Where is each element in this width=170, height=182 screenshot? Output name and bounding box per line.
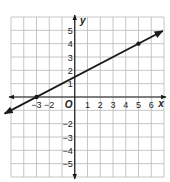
y-tick-label: 5 — [68, 26, 73, 36]
x-tick-label: 4 — [123, 100, 128, 110]
y-tick-label: 2 — [68, 66, 73, 76]
origin-label: O — [65, 99, 73, 110]
coordinate-plane: −3−212345654321−2−3−4−5Oxy — [0, 0, 170, 182]
data-point — [34, 95, 38, 99]
x-tick-label: −2 — [44, 100, 54, 110]
y-tick-label: −5 — [62, 159, 72, 169]
x-tick-label: 3 — [110, 100, 115, 110]
y-tick-label: −3 — [62, 133, 72, 143]
x-tick-label: −3 — [31, 100, 41, 110]
y-tick-label: −4 — [62, 146, 72, 156]
x-tick-label: 2 — [98, 100, 103, 110]
y-tick-label: −2 — [62, 119, 72, 129]
data-point — [136, 41, 140, 45]
x-tick-label: 6 — [149, 100, 154, 110]
x-axis-label: x — [157, 98, 164, 109]
y-tick-label: 4 — [68, 39, 73, 49]
tick-labels: −3−212345654321−2−3−4−5Oxy — [31, 15, 164, 169]
y-axis-label: y — [79, 15, 86, 26]
y-tick-label: 3 — [68, 53, 73, 63]
x-tick-label: 1 — [85, 100, 90, 110]
x-tick-label: 5 — [136, 100, 141, 110]
